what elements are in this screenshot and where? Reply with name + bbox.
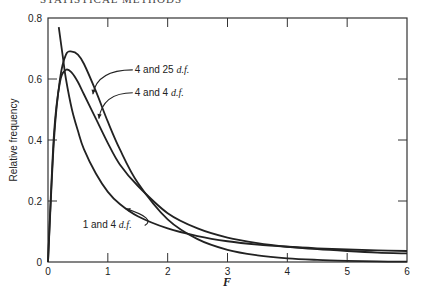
x-axis-title: F bbox=[222, 275, 231, 289]
y-tick-label: 0.8 bbox=[28, 13, 42, 24]
annotation-arrow bbox=[99, 93, 133, 119]
arrowhead-icon bbox=[91, 89, 95, 94]
annotation-arrow bbox=[93, 70, 133, 94]
curve-1-and-4-d-f bbox=[59, 27, 407, 251]
annotation-label: 1 and 4 d.f. bbox=[83, 219, 132, 230]
x-tick-label: 0 bbox=[45, 266, 51, 277]
x-tick-label: 5 bbox=[344, 266, 350, 277]
f-distribution-chart: 012345600.20.40.60.8 4 and 25 d.f.4 and … bbox=[0, 0, 424, 301]
annotation-label: 4 and 4 d.f. bbox=[135, 87, 184, 98]
annotation-label: 4 and 25 d.f. bbox=[135, 64, 190, 75]
y-axis-title: Relative frequency bbox=[8, 99, 19, 182]
y-tick-label: 0.2 bbox=[28, 196, 42, 207]
axis-ticks: 012345600.20.40.60.8 bbox=[28, 13, 410, 277]
x-tick-label: 1 bbox=[105, 266, 111, 277]
curve-4-and-4-d-f bbox=[48, 69, 407, 262]
x-tick-label: 6 bbox=[404, 266, 410, 277]
y-tick-label: 0 bbox=[36, 257, 42, 268]
curve-annotations: 4 and 25 d.f.4 and 4 d.f.1 and 4 d.f. bbox=[83, 64, 190, 231]
y-tick-label: 0.6 bbox=[28, 74, 42, 85]
x-tick-label: 2 bbox=[165, 266, 171, 277]
arrowhead-icon bbox=[97, 114, 101, 119]
y-tick-label: 0.4 bbox=[28, 135, 42, 146]
x-tick-label: 4 bbox=[285, 266, 291, 277]
